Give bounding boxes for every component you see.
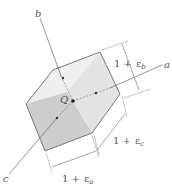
axis-label-a: a bbox=[164, 59, 170, 70]
point-q-dot bbox=[71, 99, 75, 103]
dim-a-arrow-line bbox=[52, 151, 96, 167]
dim-c-ext-top bbox=[122, 96, 127, 117]
b-axis-point bbox=[62, 77, 64, 79]
axis-label-c: c bbox=[3, 173, 9, 184]
a-axis-point bbox=[95, 92, 97, 94]
b-axis bbox=[40, 18, 61, 76]
dim-b-ext-bottom bbox=[124, 89, 150, 98]
c-axis-point bbox=[56, 117, 58, 119]
deformed-element-diagram: b a c Q 1 + εb 1 + εc 1 + εa bbox=[0, 0, 172, 184]
dim-c-label: 1 + εc bbox=[113, 135, 144, 148]
dim-b-ext-top bbox=[102, 41, 128, 50]
dim-b-label: 1 + εb bbox=[114, 58, 146, 71]
diagram-svg: b a c Q 1 + εb 1 + εc 1 + εa bbox=[0, 0, 172, 184]
dim-a-label: 1 + εa bbox=[62, 173, 93, 184]
dim-a-ext-left bbox=[46, 153, 52, 172]
axis-label-b: b bbox=[35, 8, 41, 19]
dim-a-ext-right bbox=[92, 136, 99, 157]
point-label-q: Q bbox=[60, 94, 68, 105]
